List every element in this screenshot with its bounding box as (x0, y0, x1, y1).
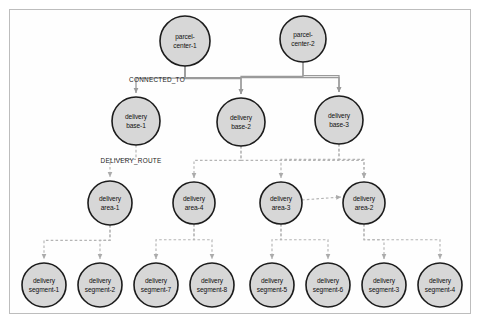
node-label-line2-delivery-segment-5: segment-5 (257, 286, 288, 294)
node-label-line1-delivery-segment-7: delivery (145, 277, 168, 285)
node-label-line2-delivery-base-2: base-2 (231, 123, 251, 130)
node-label-line2-delivery-segment-6: segment-6 (313, 286, 344, 294)
edge-delivery-area-3-to-delivery-segment-5 (272, 224, 281, 259)
diagram-canvas: parcel-center-1parcel-center-2deliveryba… (0, 0, 483, 329)
relationship-label-rel-delivery-route: DELIVERY_ROUTE (101, 157, 162, 165)
node-delivery-segment-8[interactable]: deliverysegment-8 (190, 263, 234, 307)
node-parcel-center-1[interactable]: parcel-center-1 (160, 16, 210, 66)
edge-delivery-area-2-to-delivery-segment-4 (364, 224, 440, 259)
node-label-line1-parcel-center-2: parcel- (293, 31, 312, 39)
node-label-line1-delivery-area-1: delivery (99, 195, 122, 203)
node-label-line2-delivery-area-4: area-4 (185, 204, 204, 211)
node-label-line1-delivery-segment-4: delivery (429, 277, 452, 285)
node-delivery-area-3[interactable]: deliveryarea-3 (260, 182, 302, 224)
node-label-line1-delivery-segment-1: delivery (33, 277, 56, 285)
node-label-line1-delivery-base-1: delivery (125, 113, 148, 121)
edge-delivery-area-3-to-delivery-segment-6 (281, 224, 328, 259)
node-delivery-segment-5[interactable]: deliverysegment-5 (250, 263, 294, 307)
node-delivery-segment-4[interactable]: deliverysegment-4 (418, 263, 462, 307)
node-label-line2-delivery-segment-8: segment-8 (197, 286, 228, 294)
node-label-line1-delivery-base-3: delivery (328, 112, 351, 120)
node-delivery-area-4[interactable]: deliveryarea-4 (173, 182, 215, 224)
node-delivery-segment-7[interactable]: deliverysegment-7 (134, 263, 178, 307)
node-label-line2-delivery-segment-2: segment-2 (85, 286, 116, 294)
edge-delivery-base-3-to-delivery-area-2 (339, 144, 364, 178)
node-label-line1-parcel-center-1: parcel- (175, 33, 194, 41)
node-parcel-center-2[interactable]: parcel-center-2 (280, 16, 326, 62)
node-label-line1-delivery-segment-5: delivery (261, 277, 284, 285)
node-delivery-area-1[interactable]: deliveryarea-1 (88, 181, 132, 225)
node-label-line2-delivery-segment-3: segment-3 (369, 286, 400, 294)
node-label-line1-delivery-segment-6: delivery (317, 277, 340, 285)
edge-parcel-center-2-to-delivery-base-3 (303, 62, 339, 92)
edge-delivery-area-2-to-delivery-segment-3 (364, 224, 384, 259)
node-delivery-base-2[interactable]: deliverybase-2 (217, 98, 265, 146)
node-label-line2-delivery-base-1: base-1 (126, 122, 146, 129)
node-label-line1-delivery-base-2: delivery (230, 114, 253, 122)
node-delivery-area-2[interactable]: deliveryarea-2 (343, 182, 385, 224)
edge-delivery-area-4-to-delivery-segment-7 (156, 224, 194, 259)
node-delivery-segment-2[interactable]: deliverysegment-2 (78, 263, 122, 307)
node-delivery-base-3[interactable]: deliverybase-3 (315, 96, 363, 144)
node-delivery-segment-1[interactable]: deliverysegment-1 (22, 263, 66, 307)
node-label-line1-delivery-segment-2: delivery (89, 277, 112, 285)
edge-delivery-area-1-to-delivery-segment-2 (100, 225, 110, 259)
edge-delivery-area-3-to-delivery-area-2 (302, 197, 341, 200)
node-label-line1-delivery-area-2: delivery (353, 195, 376, 203)
node-label-line2-delivery-base-3: base-3 (329, 121, 349, 128)
node-label-line2-delivery-area-2: area-2 (355, 204, 374, 211)
node-delivery-segment-3[interactable]: deliverysegment-3 (362, 263, 406, 307)
node-label-line2-delivery-area-3: area-3 (272, 204, 291, 211)
node-label-line2-delivery-segment-4: segment-4 (425, 286, 456, 294)
node-label-line2-delivery-segment-7: segment-7 (141, 286, 172, 294)
edge-delivery-area-4-to-delivery-segment-8 (194, 224, 212, 259)
graph-svg: parcel-center-1parcel-center-2deliveryba… (0, 0, 483, 329)
node-label-line1-delivery-segment-3: delivery (373, 277, 396, 285)
edge-delivery-base-2-to-delivery-area-4 (194, 146, 241, 178)
node-delivery-segment-6[interactable]: deliverysegment-6 (306, 263, 350, 307)
node-label-line1-delivery-area-3: delivery (270, 195, 293, 203)
node-label-line1-delivery-segment-8: delivery (201, 277, 224, 285)
edge-parcel-center-1-to-delivery-base-2 (185, 66, 241, 94)
edge-delivery-base-2-to-delivery-area-2 (241, 146, 364, 178)
edge-delivery-base-3-to-delivery-area-3 (281, 144, 339, 178)
node-label-line2-parcel-center-1: center-1 (173, 42, 197, 49)
node-label-line2-delivery-area-1: area-1 (101, 204, 120, 211)
node-label-line2-parcel-center-2: center-2 (291, 40, 315, 47)
node-layer: parcel-center-1parcel-center-2deliveryba… (22, 16, 462, 307)
node-label-line1-delivery-area-4: delivery (183, 195, 206, 203)
node-label-line2-delivery-segment-1: segment-1 (29, 286, 60, 294)
relationship-label-rel-connected-to: CONNECTED_TO (129, 76, 185, 84)
node-delivery-base-1[interactable]: deliverybase-1 (112, 97, 160, 145)
